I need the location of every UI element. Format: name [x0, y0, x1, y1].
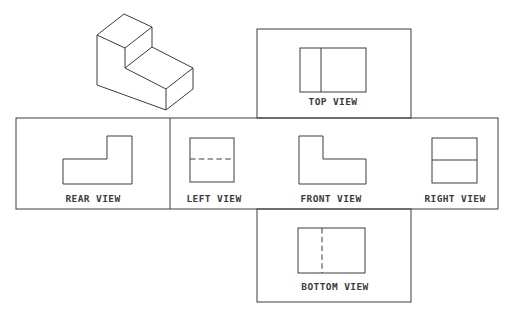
rear-view-outline	[63, 136, 132, 184]
top-view-label: TOP VIEW	[309, 96, 358, 107]
rear-view-label: REAR VIEW	[65, 193, 120, 204]
top-view-outline	[300, 48, 366, 92]
bottom-view-outline	[298, 228, 365, 273]
front-view-panel: FRONT VIEW	[299, 136, 366, 204]
front-view-outline	[299, 136, 366, 184]
isometric-step-front-edges	[125, 48, 166, 89]
isometric-view	[97, 14, 193, 110]
orthographic-projection-drawing: TOP VIEW REAR VIEW LEFT VIEW FRONT VIEW …	[0, 0, 518, 320]
top-view-panel: TOP VIEW	[300, 48, 366, 107]
drawing-canvas: TOP VIEW REAR VIEW LEFT VIEW FRONT VIEW …	[0, 0, 518, 320]
left-view-label: LEFT VIEW	[186, 193, 241, 204]
bottom-view-panel: BOTTOM VIEW	[298, 228, 369, 292]
isometric-left-face-edges	[97, 35, 166, 110]
view-panels-grid	[16, 29, 498, 302]
rear-view-panel: REAR VIEW	[63, 136, 132, 204]
right-view-panel: RIGHT VIEW	[424, 138, 485, 204]
front-view-label: FRONT VIEW	[300, 193, 361, 204]
left-view-outline	[190, 138, 234, 182]
isometric-top-face	[97, 14, 152, 48]
isometric-seat-top-edges	[152, 47, 193, 89]
isometric-right-face-edges	[166, 68, 193, 110]
right-view-label: RIGHT VIEW	[424, 193, 485, 204]
bottom-view-label: BOTTOM VIEW	[301, 281, 368, 292]
left-view-panel: LEFT VIEW	[186, 138, 241, 204]
isometric-step-riser-edges	[125, 27, 152, 68]
